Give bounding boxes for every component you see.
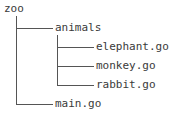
tree-edge-to-rabbit	[57, 85, 94, 86]
tree-node-rabbit-go: rabbit.go	[96, 79, 156, 90]
tree-edge-animals-trunk	[57, 35, 58, 86]
tree-edge-to-elephant	[57, 47, 94, 48]
tree-node-monkey-go: monkey.go	[96, 60, 156, 71]
tree-node-elephant-go: elephant.go	[96, 41, 169, 52]
tree-node-zoo: zoo	[4, 3, 24, 14]
directory-tree-diagram: zoo animals elephant.go monkey.go rabbit…	[0, 0, 185, 116]
tree-edge-to-main	[16, 104, 53, 105]
tree-node-main-go: main.go	[55, 98, 101, 109]
tree-node-animals: animals	[55, 22, 101, 33]
tree-edge-to-monkey	[57, 66, 94, 67]
tree-edge-to-animals	[16, 28, 53, 29]
tree-edge-root-trunk	[16, 16, 17, 105]
